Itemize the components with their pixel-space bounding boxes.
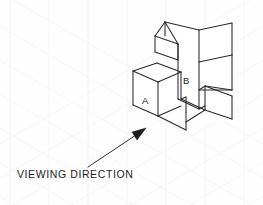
label-face-b: B [183,75,189,86]
object-solid-fills [133,22,232,124]
label-face-a: A [142,95,149,106]
viewing-direction-caption: VIEWING DIRECTION [17,168,133,180]
viewing-direction-arrow [88,128,146,167]
figure-canvas: A B VIEWING DIRECTION [0,0,263,205]
